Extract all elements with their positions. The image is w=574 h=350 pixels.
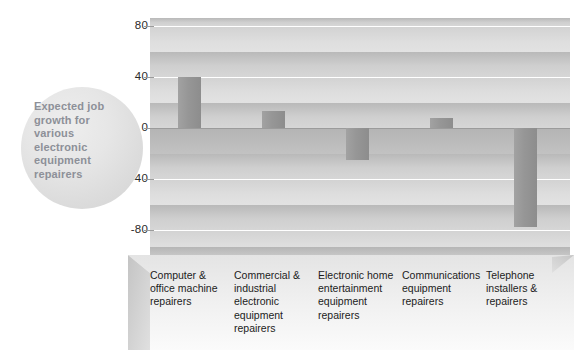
bar [430,118,453,128]
chart-figure: 80400-40-80 Expected job growth for vari… [0,0,574,350]
category-labels: Computer & office machine repairersComme… [150,269,574,335]
y-axis-tick-label: 0 [141,121,148,133]
category-label: Telephone installers & repairers [486,269,570,335]
background-band [150,205,570,231]
background-band [150,179,570,205]
category-label: Communications equipment repairers [402,269,486,335]
y-axis-tick-label: 40 [135,70,148,82]
bar [262,111,285,128]
category-label-strip: Computer & office machine repairersComme… [128,255,574,350]
bar [178,77,201,128]
plot-area [150,18,570,255]
category-label: Commercial & industrial electronic equip… [234,269,318,335]
category-label: Computer & office machine repairers [150,269,234,335]
background-band [150,52,570,78]
gridline [150,26,570,27]
background-band [150,26,570,52]
chart-title: Expected job growth for various electron… [34,100,130,182]
y-axis-tick-label: -80 [131,223,148,235]
y-axis-tick-label: 80 [135,19,148,31]
y-axis-tick-mark [144,179,154,180]
background-band [150,103,570,129]
gridline [150,230,570,231]
y-axis-tick-mark [144,26,154,27]
y-axis-tick-mark [144,230,154,231]
gridline [150,77,570,78]
y-axis-tick-mark [144,77,154,78]
background-band [150,77,570,103]
bar [514,128,537,227]
background-band [150,18,570,26]
y-axis-tick-mark [144,128,154,129]
gridline [150,179,570,180]
category-label: Electronic home entertainment equipment … [318,269,402,335]
bar [346,128,369,160]
